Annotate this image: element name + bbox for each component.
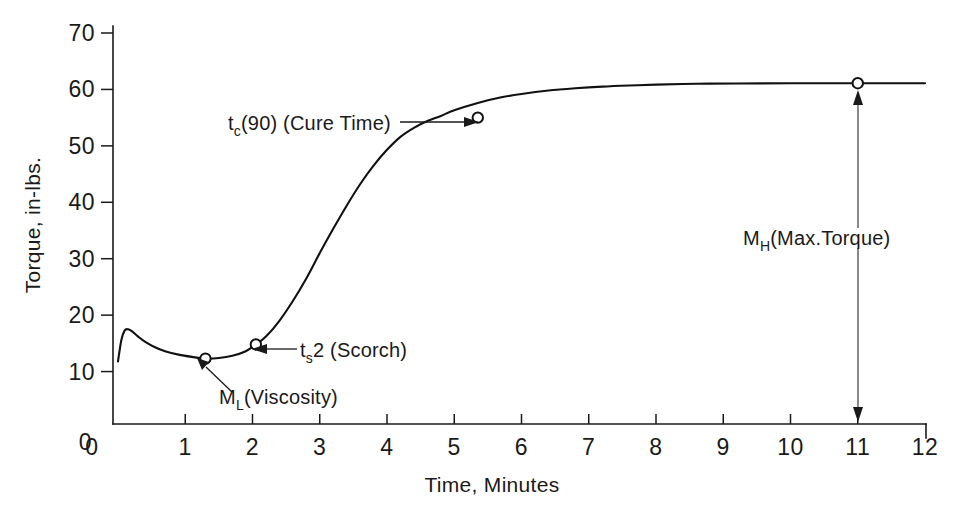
x-tick-label-11: 11 [845, 434, 870, 460]
max-torque-subscript: H [760, 238, 770, 254]
annotation-leaders [197, 90, 863, 422]
x-tick-label-10: 10 [777, 434, 804, 460]
x-tick-label-9: 9 [717, 434, 730, 460]
x-tick-label-7: 7 [582, 434, 595, 460]
x-tick-label-3: 3 [313, 434, 326, 460]
x-tick-label-6: 6 [515, 434, 528, 460]
scorch-annotation: ts2 (Scorch) [300, 339, 407, 366]
viscosity-base: M [219, 386, 236, 408]
max-torque-annotation: MH(Max.Torque) [743, 227, 890, 254]
max-torque-arrowhead-up [853, 90, 863, 105]
x-tick-label-2: 2 [246, 434, 259, 460]
x-tick-label-8: 8 [649, 434, 662, 460]
x-axis-ticks: 0123456789101112 [85, 414, 938, 460]
x-tick-label-5: 5 [448, 434, 461, 460]
x-axis-title: Time, Minutes [425, 473, 560, 496]
cure-time-annotation: tc(90) (Cure Time) [228, 112, 391, 139]
y-tick-label-70: 70 [68, 20, 95, 46]
x-tick-label-12: 12 [912, 434, 939, 460]
max-torque-base: M [743, 227, 760, 249]
scorch-rest: 2 (Scorch) [313, 339, 407, 361]
rheometer-chart: 010203040506070 0123456789101112 [0, 0, 974, 518]
cure-time-leader [400, 117, 479, 127]
y-tick-label-10: 10 [68, 359, 95, 385]
y-tick-label-30: 30 [68, 246, 95, 272]
y-tick-label-50: 50 [68, 133, 95, 159]
y-axis-title: Torque, in-lbs. [21, 157, 44, 293]
x-tick-label-4: 4 [380, 434, 393, 460]
scorch-subscript: s [306, 350, 313, 366]
y-tick-label-60: 60 [68, 76, 95, 102]
viscosity-rest: (Viscosity) [244, 386, 338, 408]
cure-time-rest: (90) (Cure Time) [241, 112, 391, 134]
max-torque-dimension [853, 90, 863, 422]
cure-curve-figure: 010203040506070 0123456789101112 [0, 0, 974, 518]
max-torque-arrowhead-down [853, 407, 863, 422]
x-tick-label-1: 1 [179, 434, 192, 460]
y-tick-label-20: 20 [68, 302, 95, 328]
max-torque-rest: (Max.Torque) [770, 227, 890, 249]
y-tick-label-40: 40 [68, 189, 95, 215]
cure-time-subscript: c [234, 123, 241, 139]
viscosity-subscript: L [236, 397, 244, 413]
y-axis-ticks: 010203040506070 [68, 20, 113, 455]
viscosity-annotation: ML(Viscosity) [219, 386, 338, 413]
annotation-labels: tc(90) (Cure Time) ts2 (Scorch) ML(Visco… [219, 112, 890, 413]
marker-max-torque [853, 78, 863, 88]
x-tick-label-0: 0 [85, 434, 98, 460]
